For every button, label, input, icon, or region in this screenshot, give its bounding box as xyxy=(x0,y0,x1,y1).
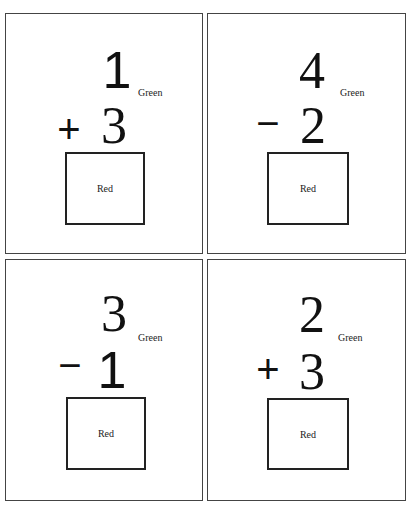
answer-box: Red xyxy=(65,152,145,225)
number-color-label: Green xyxy=(340,87,364,98)
answer-box-color-label: Red xyxy=(98,428,114,439)
answer-box: Red xyxy=(267,152,349,225)
top-number: 2 xyxy=(292,289,332,341)
plus-operator: + xyxy=(54,109,84,149)
answer-box-color-label: Red xyxy=(300,429,316,440)
number-color-label: Green xyxy=(138,87,162,98)
flashcard-1-plus-3: 1 + 3 Green Red xyxy=(5,13,203,254)
number-color-label: Green xyxy=(138,332,162,343)
bottom-number: 3 xyxy=(292,346,332,398)
flashcard-3-minus-1: 3 − 1 Green Red xyxy=(5,259,203,501)
flashcard-2-plus-3: 2 + 3 Green Red xyxy=(207,259,406,501)
answer-box-color-label: Red xyxy=(300,183,316,194)
bottom-number: 1 xyxy=(92,344,132,396)
top-number: 4 xyxy=(292,45,332,97)
top-number: 3 xyxy=(94,288,134,340)
plus-operator: + xyxy=(253,349,283,389)
number-color-label: Green xyxy=(338,332,362,343)
answer-box-color-label: Red xyxy=(97,183,113,194)
answer-box: Red xyxy=(267,398,349,470)
minus-operator: − xyxy=(253,103,283,143)
bottom-number: 3 xyxy=(94,100,134,152)
minus-operator: − xyxy=(55,345,85,385)
flashcard-4-minus-2: 4 − 2 Green Red xyxy=(207,13,406,254)
answer-box: Red xyxy=(66,397,146,470)
bottom-number: 2 xyxy=(293,100,333,152)
top-number: 1 xyxy=(97,44,137,96)
